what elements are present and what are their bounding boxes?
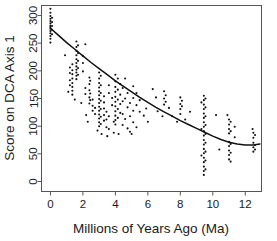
data-point: [147, 121, 149, 123]
data-point: [77, 60, 79, 62]
data-point: [218, 148, 220, 150]
data-point: [161, 115, 163, 117]
data-point: [230, 121, 232, 123]
data-point: [108, 128, 110, 130]
data-point: [77, 44, 79, 46]
data-point: [84, 87, 86, 89]
data-point: [101, 133, 103, 135]
data-point: [203, 99, 205, 101]
data-point: [105, 126, 107, 128]
data-point: [184, 118, 186, 120]
x-tick-label: 4: [112, 198, 119, 210]
data-point: [165, 101, 167, 103]
data-point: [228, 123, 230, 125]
data-point: [204, 159, 206, 161]
data-point: [71, 78, 73, 80]
data-point: [127, 92, 129, 94]
data-point: [80, 102, 82, 104]
data-point: [204, 124, 206, 126]
data-point: [204, 106, 206, 108]
dca-scatter-figure: 024681012 050100150200250300 Millions of…: [0, 0, 277, 241]
data-point: [139, 99, 141, 101]
y-tick-label: 50: [28, 147, 40, 160]
data-point: [204, 115, 206, 117]
data-point: [98, 82, 100, 84]
x-tick-label: 0: [47, 198, 53, 210]
data-point: [82, 62, 84, 64]
data-point: [118, 133, 120, 135]
data-point: [117, 99, 119, 101]
data-point: [117, 78, 119, 80]
data-point: [179, 103, 181, 105]
data-point: [129, 102, 131, 104]
data-point: [71, 82, 73, 84]
data-point: [71, 90, 73, 92]
data-point: [139, 111, 141, 113]
plot-svg: 024681012 050100150200250300 Millions of…: [0, 0, 277, 241]
data-point: [98, 71, 100, 73]
data-point: [98, 110, 100, 112]
plot-frame: [42, 6, 262, 192]
data-point: [84, 93, 86, 95]
data-point: [92, 110, 94, 112]
data-point: [114, 96, 116, 98]
data-point: [252, 137, 254, 139]
data-point: [71, 63, 73, 65]
data-point: [122, 113, 124, 115]
data-point: [71, 94, 73, 96]
data-point: [203, 126, 205, 128]
data-point: [49, 42, 51, 44]
data-point: [163, 90, 165, 92]
data-point: [98, 117, 100, 119]
x-tick-label: 8: [177, 198, 183, 210]
data-point: [252, 128, 254, 130]
data-point: [122, 124, 124, 126]
y-axis-tick-labels: 050100150200250300: [28, 6, 40, 185]
data-point: [77, 74, 79, 76]
data-point: [49, 12, 51, 14]
data-point: [75, 54, 77, 56]
data-point: [200, 154, 202, 156]
data-point: [203, 143, 205, 145]
data-point: [203, 139, 205, 141]
data-point: [203, 95, 205, 97]
data-point: [100, 84, 102, 86]
y-tick-label: 150: [28, 89, 40, 108]
y-tick-label: 0: [28, 178, 40, 184]
data-point: [94, 107, 96, 109]
data-point: [203, 104, 205, 106]
data-point: [203, 112, 205, 114]
data-point: [75, 40, 77, 42]
data-point: [124, 97, 126, 99]
data-point: [204, 168, 206, 170]
data-point: [75, 62, 77, 64]
x-axis-title: Millions of Years Ago (Ma): [73, 221, 229, 236]
data-point: [114, 101, 116, 103]
data-point: [103, 101, 105, 103]
data-point: [100, 108, 102, 110]
data-point: [100, 116, 102, 118]
data-point: [124, 118, 126, 120]
data-point: [84, 43, 86, 45]
data-point: [75, 58, 77, 60]
y-tick-label: 250: [28, 34, 40, 53]
data-point: [71, 73, 73, 75]
data-point: [103, 120, 105, 122]
data-point: [114, 110, 116, 112]
data-point: [117, 117, 119, 119]
data-point: [204, 151, 206, 153]
data-point: [252, 151, 254, 153]
data-point: [230, 161, 232, 163]
data-point: [98, 98, 100, 100]
data-point: [203, 157, 205, 159]
data-point: [98, 121, 100, 123]
data-point: [98, 114, 100, 116]
y-tick-label: 200: [28, 61, 40, 80]
data-point: [75, 71, 77, 73]
data-point: [131, 133, 133, 135]
data-point: [181, 105, 183, 107]
data-point: [203, 161, 205, 163]
data-point: [113, 132, 115, 134]
data-point: [200, 101, 202, 103]
data-point: [51, 17, 53, 19]
